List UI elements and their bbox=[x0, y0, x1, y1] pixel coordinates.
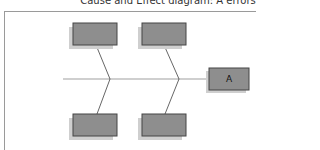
cause-bone-2 bbox=[164, 45, 179, 79]
cause-box-3 bbox=[73, 114, 117, 136]
cause-bone-4 bbox=[165, 79, 179, 114]
cause-bone-1 bbox=[96, 45, 110, 79]
cause-box-4 bbox=[142, 114, 186, 136]
cause-bone-3 bbox=[97, 79, 110, 114]
effect-label: A bbox=[209, 68, 249, 90]
cause-box-1 bbox=[73, 23, 117, 45]
cause-box-2 bbox=[142, 23, 186, 45]
